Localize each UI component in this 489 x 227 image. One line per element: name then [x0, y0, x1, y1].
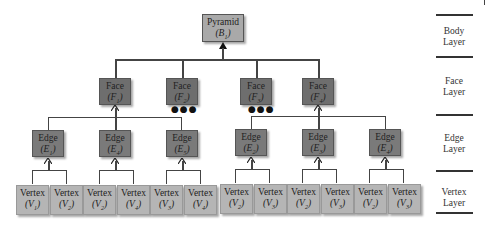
node-symbol: (V3): [255, 198, 286, 213]
node-label: Vertex: [221, 185, 252, 198]
node-symbol: (V4): [118, 199, 149, 214]
node-label: Vertex: [118, 186, 149, 199]
vertex-node: Vertex (V4): [184, 185, 217, 215]
connector: [166, 170, 167, 184]
layer-label-line: Vertex: [428, 187, 480, 198]
connector: [302, 169, 303, 183]
connector: [32, 170, 33, 184]
connector: [336, 169, 337, 183]
node-label: Vertex: [17, 186, 48, 199]
connector: [251, 160, 253, 169]
vertex-node: Vertex (V3): [321, 184, 354, 214]
layer-divider: [436, 14, 473, 16]
node-label: Vertex: [84, 186, 115, 199]
node-label: Vertex: [151, 186, 182, 199]
vertex-node: Vertex (V3): [388, 184, 421, 214]
connector: [256, 59, 258, 78]
layer-label-line: Body: [428, 26, 480, 37]
connector: [235, 169, 270, 170]
node-symbol: (V2): [288, 198, 319, 213]
connector: [369, 169, 370, 183]
edge-node: Edge (E2): [235, 129, 267, 156]
ellipsis-icon: ●●●: [248, 104, 275, 114]
node-label: Vertex: [51, 186, 82, 199]
node-label: Face: [303, 79, 333, 92]
edge-node: Edge (E4): [99, 130, 131, 157]
node-label: Face: [167, 79, 197, 92]
face-node: Face (F4): [302, 78, 334, 105]
node-label: Edge: [33, 131, 63, 144]
node-symbol: (V3): [322, 198, 353, 213]
vertex-node: Vertex (V2): [354, 184, 387, 214]
edge-node: Edge (E3): [302, 129, 334, 156]
layer-label-vertex: Vertex Layer: [428, 187, 480, 209]
node-symbol: (B1): [203, 28, 243, 43]
vertex-node: Vertex (V2): [83, 185, 116, 215]
connector: [269, 169, 270, 183]
node-symbol: (V2): [51, 199, 82, 214]
connector: [403, 169, 404, 183]
face-node: Face (F2): [166, 78, 198, 105]
node-symbol: (V3): [389, 198, 420, 213]
node-label: Edge: [236, 130, 266, 143]
layer-label-line: Layer: [428, 37, 480, 48]
edge-node: Edge (E4): [369, 129, 401, 156]
node-symbol: (V4): [185, 199, 216, 214]
layer-label-line: Layer: [428, 198, 480, 209]
connector: [115, 59, 117, 78]
node-label: Edge: [303, 130, 333, 143]
node-symbol: (E5): [167, 144, 197, 159]
node-symbol: (E3): [303, 143, 333, 158]
connector: [99, 170, 134, 171]
connector: [318, 59, 320, 78]
connector: [115, 59, 320, 61]
connector: [115, 161, 117, 170]
face-node: Face (F3): [240, 78, 272, 105]
connector: [182, 161, 184, 170]
connector: [166, 170, 201, 171]
vertex-node: Vertex (V2): [50, 185, 83, 215]
node-symbol: (V2): [221, 198, 252, 213]
node-symbol: (E4): [370, 143, 400, 158]
node-symbol: (V3): [151, 199, 182, 214]
layer-divider: [436, 170, 473, 172]
connector: [48, 117, 49, 130]
edge-node: Edge (E5): [166, 130, 198, 157]
connector: [385, 160, 387, 169]
node-label: Vertex: [255, 185, 286, 198]
connector: [99, 170, 100, 184]
corner-mark: [484, 0, 485, 5]
connector: [32, 170, 67, 171]
layer-label-line: Layer: [428, 144, 480, 155]
connector: [200, 170, 201, 184]
connector: [369, 169, 404, 170]
node-symbol: (V1): [17, 199, 48, 214]
connector: [48, 161, 50, 170]
node-label: Vertex: [185, 186, 216, 199]
node-symbol: (V2): [355, 198, 386, 213]
layer-label-line: Layer: [428, 87, 480, 98]
connector: [318, 160, 320, 169]
face-node: Face (F1): [99, 78, 131, 105]
connector: [181, 117, 182, 130]
connector: [66, 170, 67, 184]
vertex-node: Vertex (V2): [220, 184, 253, 214]
layer-label-face: Face Layer: [428, 76, 480, 98]
layer-label-body: Body Layer: [428, 26, 480, 48]
connector: [302, 169, 337, 170]
layer-divider: [436, 212, 473, 214]
node-symbol: (V2): [84, 199, 115, 214]
node-symbol: (E2): [236, 143, 266, 158]
node-label: Vertex: [389, 185, 420, 198]
node-label: Vertex: [355, 185, 386, 198]
connector: [133, 170, 134, 184]
node-label: Edge: [167, 131, 197, 144]
node-symbol: (E4): [100, 144, 130, 159]
body-node-pyramid: Pyramid (B1): [202, 14, 244, 42]
node-symbol: (E1): [33, 144, 63, 159]
layer-divider: [436, 56, 473, 58]
vertex-node: Vertex (V3): [150, 185, 183, 215]
node-label: Pyramid: [203, 15, 243, 28]
node-label: Edge: [370, 130, 400, 143]
vertex-node: Vertex (V1): [16, 185, 49, 215]
